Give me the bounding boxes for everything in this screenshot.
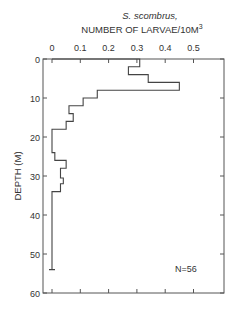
chart-title: S. scombrus, <box>122 10 177 21</box>
x-tick-label: 0.3 <box>131 43 144 53</box>
y-axis-ticks: 0102030405060 <box>30 55 224 299</box>
x-tick-label: 0 <box>49 43 54 53</box>
y-tick-label: 10 <box>30 94 40 104</box>
y-tick-label: 40 <box>30 211 40 221</box>
x-axis-label: NUMBER OF LARVAE/10M3 <box>81 23 202 35</box>
y-tick-label: 50 <box>30 250 40 260</box>
x-tick-label: 0.1 <box>74 43 87 53</box>
y-tick-label: 20 <box>30 133 40 143</box>
x-axis-ticks: 00.10.20.30.40.5 <box>49 43 199 293</box>
y-tick-label: 30 <box>30 172 40 182</box>
x-tick-label: 0.2 <box>102 43 115 53</box>
y-tick-label: 60 <box>30 289 40 299</box>
x-tick-label: 0.5 <box>187 43 200 53</box>
depth-profile-chart: S. scombrus, NUMBER OF LARVAE/10M3 DEPTH… <box>0 0 236 309</box>
larvae-profile-line <box>49 59 179 270</box>
sample-size-annotation: N=56 <box>175 264 197 274</box>
plot-frame <box>43 59 224 293</box>
y-tick-label: 0 <box>35 55 40 65</box>
x-tick-label: 0.4 <box>159 43 172 53</box>
y-axis-label: DEPTH (M) <box>12 151 23 200</box>
